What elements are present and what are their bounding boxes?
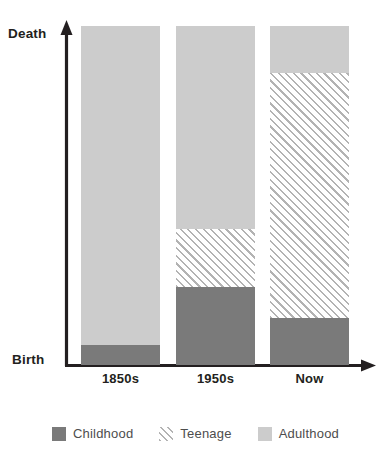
bar-segment-teenage[interactable] <box>270 73 349 317</box>
bar-1950s[interactable] <box>176 26 255 365</box>
bar-segment-childhood[interactable] <box>81 345 160 365</box>
x-tick-label-1850s: 1850s <box>81 371 160 386</box>
legend-label-childhood: Childhood <box>73 426 133 441</box>
x-tick-label-now: Now <box>270 371 349 386</box>
bar-now[interactable] <box>270 26 349 365</box>
bar-segment-adulthood[interactable] <box>176 26 255 229</box>
chart-legend: Childhood Teenage Adulthood <box>0 426 391 441</box>
bar-1850s[interactable] <box>81 26 160 365</box>
bar-segment-childhood[interactable] <box>270 318 349 365</box>
legend-swatch-teenage-icon <box>159 427 173 441</box>
bar-segment-adulthood[interactable] <box>81 26 160 345</box>
bar-segment-childhood[interactable] <box>176 287 255 365</box>
legend-item-adulthood[interactable]: Adulthood <box>258 426 339 441</box>
legend-item-childhood[interactable]: Childhood <box>52 426 133 441</box>
stacked-bar-chart: Death Birth 1850s 1950s Now Childhood <box>0 0 391 474</box>
x-tick-label-1950s: 1950s <box>176 371 255 386</box>
legend-label-teenage: Teenage <box>180 426 231 441</box>
bar-segment-teenage[interactable] <box>176 229 255 287</box>
legend-swatch-adulthood-icon <box>258 427 272 441</box>
legend-item-teenage[interactable]: Teenage <box>159 426 231 441</box>
legend-label-adulthood: Adulthood <box>279 426 339 441</box>
plot-area <box>0 0 391 474</box>
bar-segment-adulthood[interactable] <box>270 26 349 73</box>
legend-swatch-childhood-icon <box>52 427 66 441</box>
